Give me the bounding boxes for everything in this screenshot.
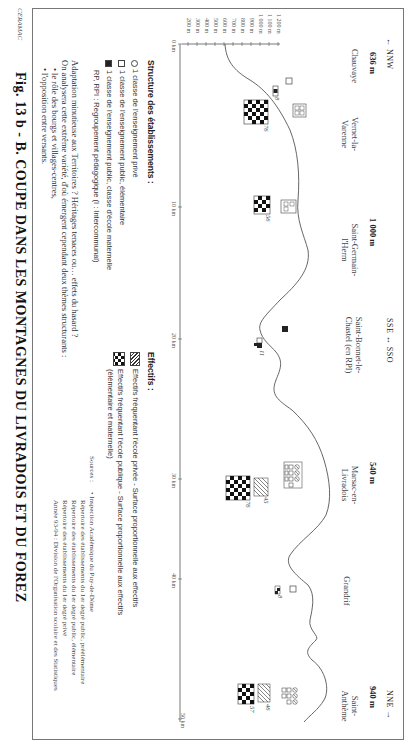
legend-effectifs-title: Effectifs : xyxy=(146,352,156,391)
commentary-bullet-1: • le rôle des bourgs et villages-centres… xyxy=(50,68,60,199)
x-tick: 20 km xyxy=(171,333,177,348)
count-saint-antheme-public: 57 xyxy=(249,706,256,713)
count-saint-germain: 56 xyxy=(265,215,272,222)
sources-line: Année 93-94 : Division de l'Organisation… xyxy=(51,500,61,691)
filled-square-icon xyxy=(105,60,112,67)
figure-page: ← NNW SSE ↔ SSO NNE → 636 m 1 000 m 540 … xyxy=(0,0,408,744)
sources-label: Sources : xyxy=(87,456,97,482)
x-tick: 10 km xyxy=(171,201,177,216)
count-saint-antheme-prive: 46 xyxy=(265,704,272,711)
sources-line: • Inspection Académique du Puy-de-Dôme xyxy=(87,492,97,612)
legend-item-maternelle: 1 classe de l'enseignement public, class… xyxy=(105,60,114,270)
sources-line: Répertoire des établissements du 1er deg… xyxy=(69,500,79,675)
count-marsac-prive: 45 xyxy=(263,497,270,504)
checker-block-icon xyxy=(113,352,125,366)
y-tick: 900 m xyxy=(249,18,255,33)
y-tick: 1 000 m xyxy=(258,14,264,34)
y-tick: 400 m xyxy=(204,18,210,33)
y-tick: 200 m xyxy=(186,18,192,33)
hatched-circle-icon xyxy=(131,60,138,67)
y-tick: 1 200 m xyxy=(276,14,282,34)
sources-line: Répertoire des établissements du 1er deg… xyxy=(78,500,88,684)
x-tick: 0 km xyxy=(171,40,177,52)
count-chauvaye: 8 xyxy=(274,97,281,100)
y-tick: 800 m xyxy=(240,18,246,33)
legend-item-effectif-prive: Effectifs fréquentant l'école privée - S… xyxy=(130,352,140,607)
count-grandrif: 8 xyxy=(277,595,284,598)
sources-line: Répertoire des établissements du 1er deg… xyxy=(60,500,70,636)
count-vernet: 76 xyxy=(263,125,270,132)
commentary-line-1: Adaptation minutieuse aux Territoires ? … xyxy=(70,60,80,337)
legend-item-prive: 1 classe de l'enseignement privé xyxy=(131,60,140,178)
figure-title: Fig. 13 b - B. COUPE DANS LES MONTAGNES … xyxy=(12,72,28,603)
count-marsac-public: 76 xyxy=(245,501,252,508)
y-tick: 700 m xyxy=(231,18,237,33)
legend-item-elementaire: 1 classe de l'enseignement public, éléme… xyxy=(118,60,127,225)
commentary-bullet-2: • l'opposition entre versants. xyxy=(40,68,50,164)
hatched-block-icon xyxy=(130,352,140,366)
y-tick: 1 100 m xyxy=(267,14,273,34)
y-tick: 600 m xyxy=(222,18,228,33)
legend-structure-title: Structure des établissements : xyxy=(146,60,156,184)
commentary-line-2: On analysera cette extrême variété, d'où… xyxy=(60,60,70,357)
legend-item-rpi: RP, RPI : Regroupement pédagogique (I : … xyxy=(92,70,101,262)
legend-item-effectif-public: Effectifs fréquentant l'école publique -… xyxy=(105,352,125,615)
x-tick: 40 km xyxy=(171,573,177,588)
empty-square-icon xyxy=(118,60,125,67)
x-tick: 30 km xyxy=(171,473,177,488)
y-tick: 500 m xyxy=(213,18,219,33)
y-tick: 300 m xyxy=(195,18,201,33)
count-saint-bonnet: 11 xyxy=(259,350,266,356)
credit-label: CERAMAC xyxy=(16,8,24,40)
x-tick: 50 km xyxy=(180,713,186,728)
